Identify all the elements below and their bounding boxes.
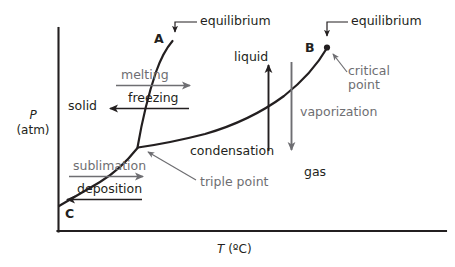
critical-point-marker [324,44,330,50]
region-label-liquid: liquid [234,51,268,64]
y-axis-symbol: P [14,108,52,123]
y-axis-label: P (atm) [14,108,52,138]
triple-point-leader [148,152,196,180]
process-label-vaporization: vaporization [300,106,377,119]
process-label-deposition: deposition [77,183,142,196]
annotation-critical-point: critical point [348,64,410,93]
phase-diagram-canvas [0,0,455,267]
x-axis-label: T (ºC) [217,243,252,255]
region-label-solid: solid [68,100,97,113]
point-label-a: A [154,33,164,46]
region-label-gas: gas [304,166,326,179]
equilibrium-b-leader [327,22,348,36]
critical-point-leader [333,54,347,72]
process-label-condensation: condensation [190,145,274,158]
process-label-sublimation: sublimation [73,160,146,173]
y-axis-unit: (atm) [14,123,52,138]
point-label-b: B [305,42,315,55]
annotation-equilibrium-b: equilibrium [351,15,422,28]
process-label-freezing: freezing [128,92,179,105]
phase-diagram-figure: P (atm) T (ºC) solid liquid gas melting … [0,0,455,267]
annotation-triple-point: triple point [200,176,268,189]
point-label-c: C [65,208,74,221]
annotation-equilibrium-a: equilibrium [200,15,271,28]
x-axis-unit: (ºC) [228,242,251,256]
equilibrium-a-leader [175,22,197,32]
process-label-melting: melting [121,69,169,82]
